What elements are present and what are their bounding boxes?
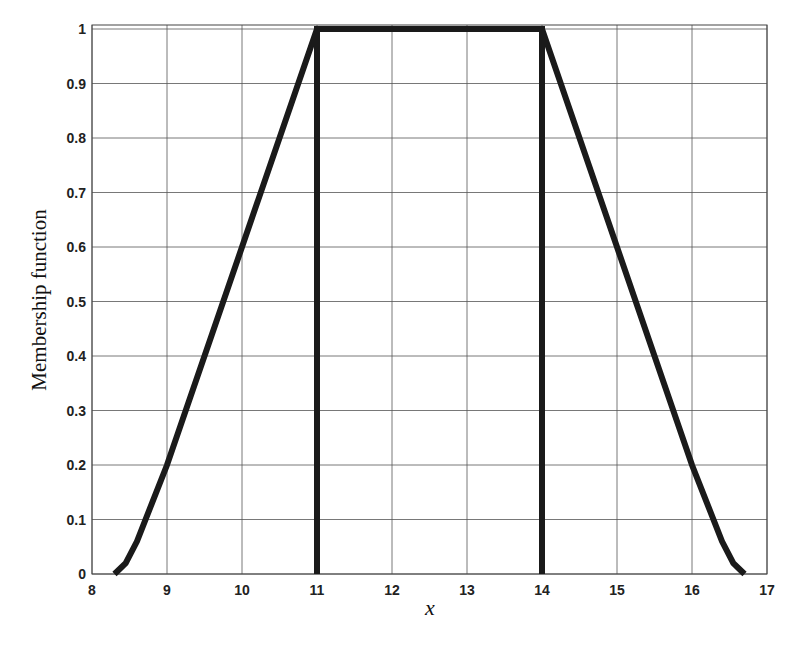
- y-tick-label: 0.5: [67, 294, 87, 310]
- y-tick-label: 0.8: [67, 130, 87, 146]
- x-tick-label: 9: [163, 582, 171, 598]
- y-tick-label: 0: [78, 566, 86, 582]
- x-tick-label: 10: [234, 582, 250, 598]
- y-tick-label: 0.6: [67, 239, 87, 255]
- y-axis-label: Membership function: [27, 209, 51, 391]
- plot-frame: [92, 25, 767, 574]
- y-tick-label: 0.4: [67, 348, 87, 364]
- x-tick-label: 13: [459, 582, 475, 598]
- y-tick-label: 0.9: [67, 76, 87, 92]
- grid-lines: [92, 25, 767, 574]
- x-axis-label: x: [424, 595, 435, 620]
- x-tick-label: 8: [88, 582, 96, 598]
- x-tick-label: 12: [384, 582, 400, 598]
- y-axis-ticks: 00.10.20.30.40.50.60.70.80.91: [67, 21, 87, 582]
- y-tick-label: 0.3: [67, 403, 87, 419]
- y-tick-label: 0.7: [67, 185, 87, 201]
- x-tick-label: 16: [684, 582, 700, 598]
- y-tick-label: 1: [78, 21, 86, 37]
- membership-function-chart: 00.10.20.30.40.50.60.70.80.91 8910111213…: [0, 0, 802, 646]
- y-tick-label: 0.1: [67, 512, 87, 528]
- x-tick-label: 11: [310, 582, 325, 598]
- y-tick-label: 0.2: [67, 457, 87, 473]
- x-tick-label: 15: [609, 582, 625, 598]
- x-tick-label: 14: [534, 582, 550, 598]
- x-tick-label: 17: [759, 582, 775, 598]
